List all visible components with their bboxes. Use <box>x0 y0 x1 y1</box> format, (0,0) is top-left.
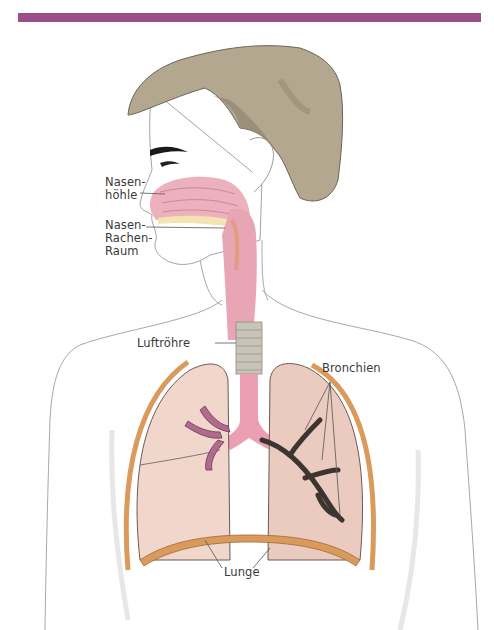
respiratory-system-illustration <box>0 0 494 630</box>
label-nasenhoehle: Nasen- höhle <box>105 176 146 202</box>
label-bronchien: Bronchien <box>322 362 381 375</box>
label-luftroehre: Luftröhre <box>137 337 190 350</box>
label-nasen-rachen-raum: Nasen- Rachen- Raum <box>105 219 153 258</box>
label-lunge: Lunge <box>224 566 260 579</box>
ear <box>250 138 273 192</box>
pharynx <box>222 209 257 340</box>
